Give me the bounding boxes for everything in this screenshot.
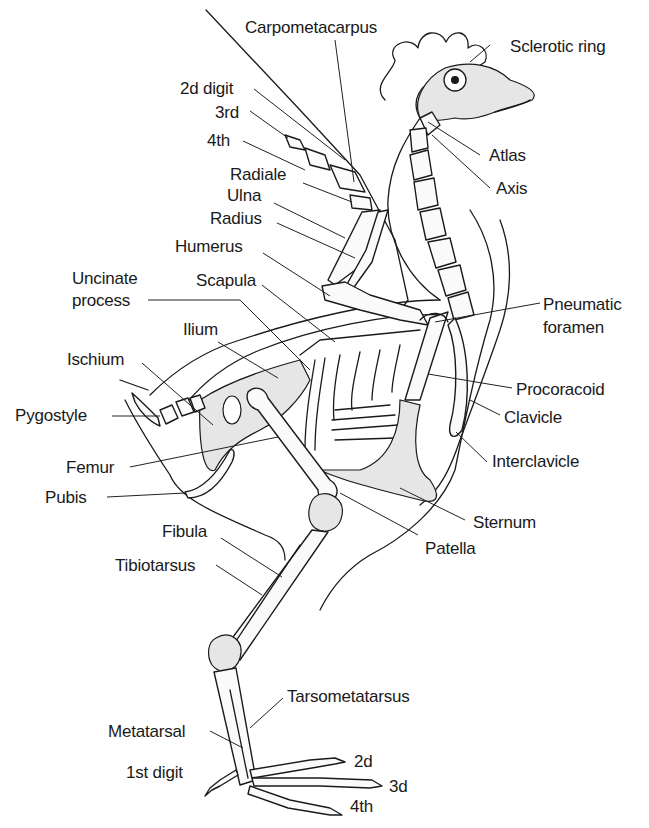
label-ischium: Ischium: [67, 350, 124, 369]
label-radiale: Radiale: [230, 165, 286, 184]
label-toe-2d: 2d: [354, 752, 373, 771]
label-pygostyle: Pygostyle: [15, 406, 87, 425]
label-tarsometatarsus: Tarsometatarsus: [287, 687, 410, 706]
label-procoracoid: Procoracoid: [516, 380, 605, 399]
label-uncinate-process-2: process: [72, 291, 130, 310]
label-patella: Patella: [425, 539, 476, 558]
neck-vertebrae: [410, 112, 474, 320]
label-carpometacarpus: Carpometacarpus: [245, 18, 377, 37]
label-pubis: Pubis: [45, 488, 87, 507]
label-atlas: Atlas: [489, 146, 526, 165]
label-interclavicle: Interclavicle: [492, 452, 579, 471]
label-1st-digit: 1st digit: [126, 763, 183, 782]
label-metatarsal: Metatarsal: [108, 722, 185, 741]
label-radius: Radius: [210, 209, 262, 228]
label-pneumatic-foramen-2: foramen: [543, 318, 604, 337]
leader-lines: [107, 40, 540, 748]
label-toe-3d: 3d: [389, 777, 408, 796]
label-3rd-digit: 3rd: [215, 103, 239, 122]
leg-bones: [209, 494, 343, 785]
label-uncinate-process-1: Uncinate: [72, 269, 138, 288]
label-femur: Femur: [66, 458, 114, 477]
label-ulna: Ulna: [227, 186, 261, 205]
label-sclerotic-ring: Sclerotic ring: [510, 37, 605, 56]
label-fibula: Fibula: [162, 522, 207, 541]
label-clavicle: Clavicle: [504, 408, 562, 427]
label-scapula: Scapula: [196, 271, 256, 290]
tail-vertebrae: [132, 393, 205, 426]
wing-bones: [285, 135, 428, 325]
label-sternum: Sternum: [473, 513, 536, 532]
label-ilium: Ilium: [183, 320, 218, 339]
label-toe-4th: 4th: [350, 797, 373, 816]
label-axis: Axis: [496, 179, 527, 198]
skull: [418, 64, 535, 120]
label-humerus: Humerus: [175, 237, 243, 256]
label-4th-digit: 4th: [207, 131, 230, 150]
label-2d-digit: 2d digit: [180, 79, 233, 98]
label-tibiotarsus: Tibiotarsus: [115, 556, 195, 575]
sternum: [320, 400, 437, 501]
label-pneumatic-foramen-1: Pneumatic: [543, 295, 622, 314]
